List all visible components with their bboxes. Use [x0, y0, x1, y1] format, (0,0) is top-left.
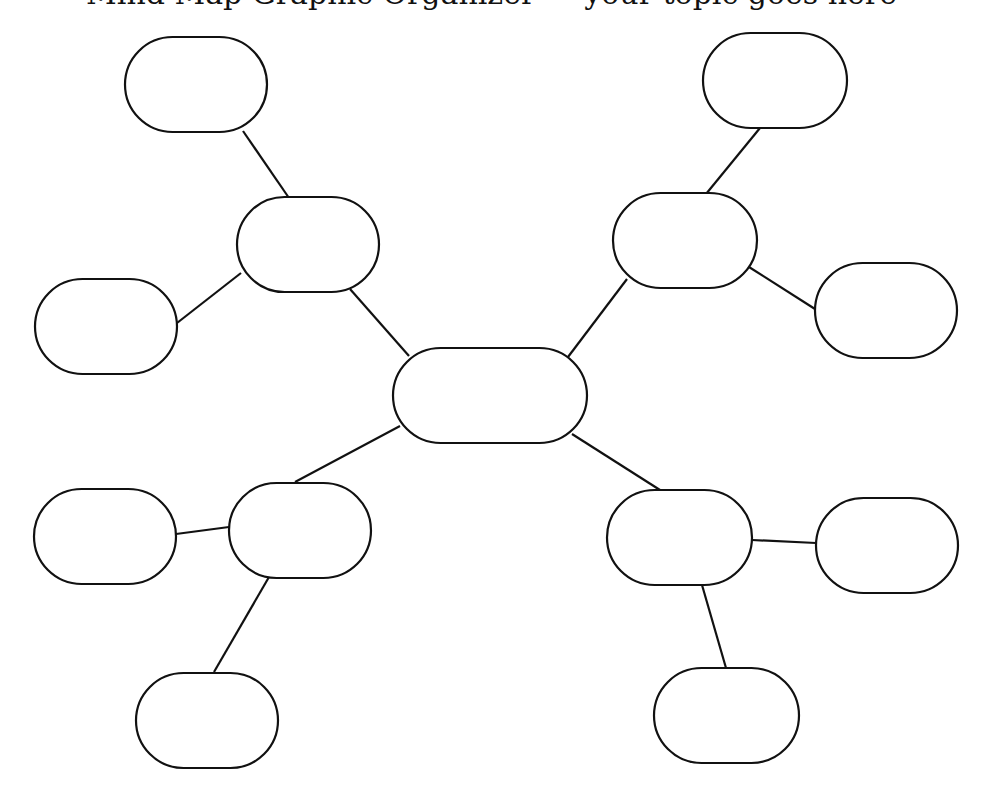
node-ur-branch[interactable] — [613, 193, 757, 288]
node-ll-bottom[interactable] — [136, 673, 278, 768]
connector-line — [572, 434, 660, 490]
node-box[interactable] — [654, 668, 799, 763]
node-box[interactable] — [34, 489, 176, 584]
node-box[interactable] — [815, 263, 957, 358]
node-box[interactable] — [136, 673, 278, 768]
node-box[interactable] — [613, 193, 757, 288]
node-ll-left[interactable] — [34, 489, 176, 584]
node-box[interactable] — [393, 348, 587, 443]
node-box[interactable] — [125, 37, 267, 132]
mind-map-diagram — [0, 0, 983, 798]
node-ul-top[interactable] — [125, 37, 267, 132]
connector-line — [350, 289, 409, 356]
node-box[interactable] — [229, 483, 371, 578]
node-ur-right[interactable] — [815, 263, 957, 358]
connector-line — [702, 585, 726, 668]
node-boxes — [34, 33, 958, 768]
node-box[interactable] — [703, 33, 847, 128]
connector-line — [706, 128, 760, 194]
node-ur-top[interactable] — [703, 33, 847, 128]
node-lr-right[interactable] — [816, 498, 958, 593]
connector-line — [295, 426, 400, 482]
connector-line — [214, 577, 269, 672]
node-ul-left[interactable] — [35, 279, 177, 374]
connector-line — [749, 267, 815, 309]
node-ll-branch[interactable] — [229, 483, 371, 578]
connector-line — [177, 273, 241, 323]
node-box[interactable] — [35, 279, 177, 374]
node-center[interactable] — [393, 348, 587, 443]
connector-line — [568, 279, 627, 357]
node-box[interactable] — [607, 490, 752, 585]
node-box[interactable] — [237, 197, 379, 292]
connector-line — [752, 540, 816, 543]
node-box[interactable] — [816, 498, 958, 593]
node-lr-bottom[interactable] — [654, 668, 799, 763]
node-ul-branch[interactable] — [237, 197, 379, 292]
node-lr-branch[interactable] — [607, 490, 752, 585]
connector-line — [243, 131, 289, 198]
connector-line — [176, 527, 229, 534]
